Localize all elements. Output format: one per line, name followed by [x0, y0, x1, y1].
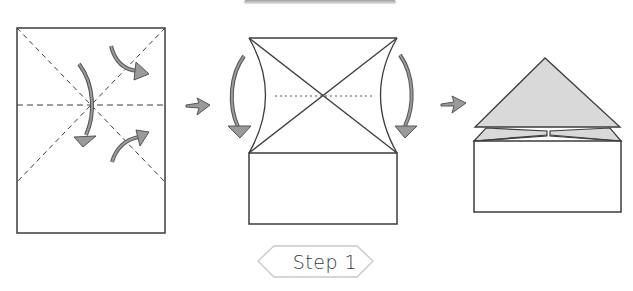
left-fold-curve	[249, 38, 266, 153]
panel-3	[474, 58, 621, 212]
next-step-arrow-icon	[441, 96, 466, 113]
step-label: Step 1	[255, 245, 395, 279]
roof-triangle	[475, 58, 620, 127]
top-label-bar	[244, 0, 396, 4]
panel-1	[17, 28, 165, 233]
panel-2	[228, 38, 417, 224]
fold-arrow-right-side-icon	[395, 55, 417, 138]
paper-bottom	[249, 153, 397, 224]
right-fold-curve	[381, 38, 398, 153]
fold-arrow-left-side-icon	[228, 56, 251, 138]
next-step-arrow-icon	[186, 98, 210, 115]
left-flap	[474, 128, 547, 141]
paper-sheet	[17, 28, 165, 233]
house-body	[474, 141, 621, 212]
right-flap	[550, 128, 621, 141]
